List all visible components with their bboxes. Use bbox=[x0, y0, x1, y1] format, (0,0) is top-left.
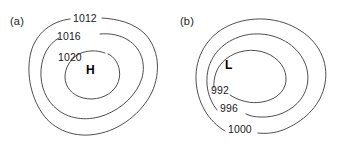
panel-a: (a) 1012 1016 1020 H bbox=[0, 0, 171, 147]
contour-label-1020: 1020 bbox=[58, 52, 82, 63]
contour-path-1000 bbox=[196, 19, 326, 133]
contour-label-1000: 1000 bbox=[228, 124, 252, 135]
contour-label-1012: 1012 bbox=[73, 13, 97, 24]
panel-b-contours bbox=[171, 0, 342, 147]
low-pressure-marker: L bbox=[225, 59, 232, 71]
contour-label-996: 996 bbox=[220, 103, 238, 114]
contour-label-992: 992 bbox=[211, 85, 229, 96]
high-pressure-marker: H bbox=[86, 64, 95, 76]
contour-label-1016: 1016 bbox=[57, 31, 81, 42]
panel-b: (b) 992 996 1000 L bbox=[171, 0, 342, 147]
isobar-figure: (a) 1012 1016 1020 H (b) 992 996 1000 L bbox=[0, 0, 342, 147]
